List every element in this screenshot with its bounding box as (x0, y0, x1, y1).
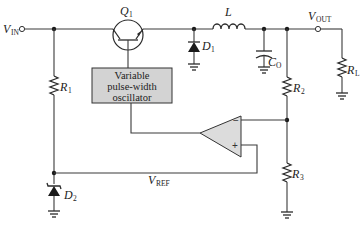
ground-icon (336, 93, 348, 99)
rl-label: R (346, 63, 355, 77)
vref-line: V REF (54, 145, 257, 188)
vin-terminal: V IN (3, 22, 25, 37)
ground-icon (48, 211, 60, 217)
r3-label: R (291, 167, 300, 181)
switching-regulator-diagram: V IN Q 1 D 1 L C O (0, 0, 361, 230)
r2-label-sub: 2 (301, 87, 305, 96)
q1-label-sub: 1 (129, 10, 133, 19)
oscillator-box: Variable pulse-width oscillator (92, 68, 172, 103)
q1-label: Q (120, 4, 129, 18)
vout-terminal: V OUT (308, 9, 332, 32)
oscillator-line-2: pulse-width (107, 81, 157, 92)
d2-zener-diode: D 2 (47, 183, 77, 211)
d1-label-sub: 1 (211, 45, 215, 54)
r1-label-sub: 1 (68, 86, 72, 95)
oscillator-control-wire (131, 103, 200, 133)
d2-label: D (63, 188, 73, 202)
r1-label: R (59, 80, 68, 94)
vref-label-sub: REF (156, 179, 170, 188)
r2-resistor: R 2 (283, 29, 305, 163)
vout-label-sub: OUT (316, 15, 332, 24)
r3-label-sub: 3 (300, 173, 304, 182)
opamp-plus: + (232, 140, 238, 151)
r1-resistor: R 1 (50, 29, 72, 184)
rl-label-sub: L (355, 69, 360, 78)
d1-diode: D 1 (188, 29, 215, 64)
opamp-minus: − (233, 115, 239, 126)
ground-icon (281, 212, 293, 218)
d2-label-sub: 2 (73, 194, 77, 203)
r2-label: R (292, 81, 301, 95)
ground-icon (188, 64, 200, 70)
oscillator-line-3: oscillator (112, 92, 152, 103)
oscillator-line-1: Variable (115, 70, 150, 81)
q1-transistor: Q 1 (113, 4, 143, 68)
l-label: L (224, 5, 232, 19)
co-label-sub: O (276, 61, 282, 70)
r3-resistor: R 3 (283, 163, 304, 212)
vin-label-sub: IN (11, 28, 19, 37)
error-amplifier: − + (200, 115, 287, 157)
rl-resistor: R L (338, 29, 360, 93)
capacitor-co: C O (256, 29, 282, 70)
d1-label: D (201, 39, 211, 53)
inductor-l: L (213, 5, 245, 29)
